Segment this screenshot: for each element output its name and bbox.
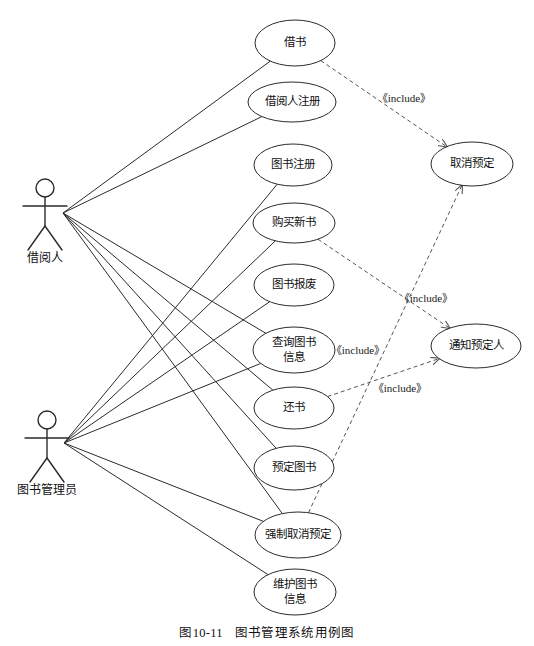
include-dependency-line bbox=[318, 239, 450, 328]
use-case-register-book[interactable]: 图书注册 bbox=[254, 144, 332, 186]
use-case-label: 图书注册 bbox=[271, 157, 316, 170]
use-case-label: 购买新书 bbox=[272, 215, 316, 228]
association-line bbox=[63, 213, 273, 390]
use-case-query-book-info[interactable]: 查询图书信息 bbox=[253, 327, 335, 373]
actor-librarian[interactable]: 图书管理员 bbox=[17, 411, 77, 497]
use-case-label: 预定图书 bbox=[272, 460, 316, 473]
actor-head-icon bbox=[36, 179, 54, 197]
use-case-label: 查询图书 bbox=[272, 335, 316, 348]
use-case-purchase-book[interactable]: 购买新书 bbox=[253, 203, 335, 243]
use-case-force-cancel[interactable]: 强制取消预定 bbox=[255, 512, 341, 558]
use-case-cancel-reservation[interactable]: 取消预定 bbox=[431, 142, 513, 186]
include-stereotype-label: 《include》 bbox=[399, 292, 453, 304]
association-line bbox=[63, 61, 270, 213]
use-case-return-book[interactable]: 还书 bbox=[254, 387, 334, 429]
actor-left-leg-icon bbox=[28, 226, 45, 250]
association-lines-layer bbox=[63, 61, 282, 575]
use-case-scrap-book[interactable]: 图书报废 bbox=[254, 264, 334, 306]
use-case-label: 通知预定人 bbox=[449, 338, 505, 351]
use-case-register-borrower[interactable]: 借阅人注册 bbox=[248, 82, 336, 122]
use-case-maintain-book-info[interactable]: 维护图书信息 bbox=[254, 569, 336, 615]
actor-right-leg-icon bbox=[45, 226, 62, 250]
include-stereotype-label: 《include》 bbox=[331, 344, 385, 356]
actor-left-leg-icon bbox=[30, 458, 47, 482]
include-stereotype-label: 《include》 bbox=[377, 92, 431, 104]
figure-caption: 图10-11图书管理系统用例图 bbox=[0, 622, 534, 641]
use-case-label: 借阅人注册 bbox=[265, 94, 321, 107]
use-case-label-line2: 信息 bbox=[283, 350, 305, 363]
figure-caption-title: 图书管理系统用例图 bbox=[235, 626, 355, 640]
use-case-label: 借书 bbox=[284, 36, 306, 48]
use-case-nodes-layer: 借书借阅人注册图书注册购买新书图书报废查询图书信息还书预定图书强制取消预定维护图… bbox=[248, 20, 521, 615]
actor-borrower[interactable]: 借阅人 bbox=[23, 179, 67, 265]
use-case-label: 强制取消预定 bbox=[265, 527, 332, 540]
include-stereotype-label: 《include》 bbox=[373, 382, 427, 394]
use-case-label: 图书报废 bbox=[272, 277, 316, 290]
association-line bbox=[64, 443, 263, 521]
association-line bbox=[63, 213, 266, 333]
diagram-canvas: 借书借阅人注册图书注册购买新书图书报废查询图书信息还书预定图书强制取消预定维护图… bbox=[0, 0, 534, 646]
actor-nodes-layer: 借阅人图书管理员 bbox=[17, 179, 77, 497]
figure-caption-number: 图10-11 bbox=[179, 626, 223, 640]
use-case-label: 取消预定 bbox=[450, 156, 495, 169]
association-line bbox=[63, 213, 282, 514]
association-line bbox=[64, 443, 268, 575]
use-case-diagram: 借书借阅人注册图书注册购买新书图书报废查询图书信息还书预定图书强制取消预定维护图… bbox=[0, 0, 534, 646]
actor-label: 图书管理员 bbox=[17, 482, 77, 497]
use-case-label: 还书 bbox=[283, 401, 305, 413]
use-case-label: 维护图书 bbox=[273, 577, 317, 590]
use-case-notify-reserver[interactable]: 通知预定人 bbox=[431, 324, 521, 368]
actor-right-leg-icon bbox=[47, 458, 64, 482]
association-line bbox=[64, 184, 277, 443]
actor-label: 借阅人 bbox=[27, 251, 63, 265]
actor-head-icon bbox=[38, 411, 56, 429]
use-case-label-line2: 信息 bbox=[284, 592, 306, 605]
use-case-reserve-book[interactable]: 预定图书 bbox=[254, 446, 334, 490]
use-case-borrow-book[interactable]: 借书 bbox=[255, 20, 335, 66]
association-line bbox=[63, 117, 262, 213]
